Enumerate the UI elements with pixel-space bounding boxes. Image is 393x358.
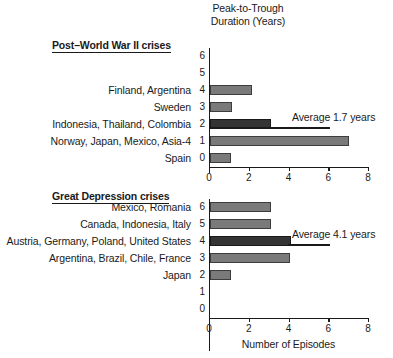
bar-row-label: Canada, Indonesia, Italy <box>80 218 191 230</box>
bar-row-label: Austria, Germany, Poland, United States <box>7 235 191 247</box>
yaxis-tick-label: 5 <box>195 218 205 229</box>
yaxis-tick-label: 1 <box>195 286 205 297</box>
xaxis-tick-label: 8 <box>358 323 378 334</box>
xaxis-tick-label: 6 <box>318 323 338 334</box>
xaxis-tick-label: 8 <box>358 172 378 183</box>
yaxis-tick-label: 4 <box>195 235 205 246</box>
average-annotation-postwar: Average 1.7 years <box>209 119 393 136</box>
yaxis-tick-label: 0 <box>195 303 205 314</box>
chart-depression: 02468 Mexico, Romania6Canada, Indonesia,… <box>0 199 393 351</box>
bar-row: Mexico, Romania6 <box>0 199 393 216</box>
average-line-depression <box>288 244 330 246</box>
bar <box>210 219 271 229</box>
chart-postwar: 02468 65Finland, Argentina4Sweden3Indone… <box>0 48 393 173</box>
bar-row-label: Indonesia, Thailand, Colombia <box>52 118 191 130</box>
bar-row: 1 <box>0 284 393 301</box>
xaxis-tick <box>249 318 250 322</box>
yaxis-title: Peak-to-Trough Duration (Years) <box>178 2 318 28</box>
yaxis-tick-label: 6 <box>195 50 205 61</box>
xaxis-tick <box>368 318 369 322</box>
bar <box>210 85 252 95</box>
yaxis-tick-label: 6 <box>195 201 205 212</box>
xaxis-tick <box>289 167 290 171</box>
xaxis-tick <box>209 167 210 171</box>
bar-row-label: Argentina, Brazil, Chile, France <box>49 252 191 264</box>
bar <box>210 153 231 163</box>
bar-row: Japan2 <box>0 267 393 284</box>
xaxis-tick <box>368 167 369 171</box>
bar <box>210 253 290 263</box>
xaxis-tick-label: 0 <box>199 172 219 183</box>
xaxis-tick <box>289 318 290 322</box>
bar-row: 5 <box>0 65 393 82</box>
bar-row: 0 <box>0 301 393 318</box>
bar-row: Spain0 <box>0 150 393 167</box>
yaxis-tick-label: 4 <box>195 84 205 95</box>
average-line-postwar <box>210 127 330 129</box>
xaxis-tick-label: 6 <box>318 172 338 183</box>
yaxis-tick-label: 2 <box>195 118 205 129</box>
yaxis-tick-label: 0 <box>195 152 205 163</box>
yaxis-title-line1: Peak-to-Trough <box>178 2 318 15</box>
bar-row: 6 <box>0 48 393 65</box>
yaxis-tick-label: 2 <box>195 269 205 280</box>
average-annotation-depression: Average 4.1 years <box>209 236 393 253</box>
bar-row-label: Mexico, Romania <box>111 201 191 213</box>
xaxis-caption: Number of Episodes <box>209 338 368 350</box>
bar-row: Finland, Argentina4 <box>0 82 393 99</box>
xaxis-tick-label: 0 <box>199 323 219 334</box>
yaxis-title-line2: Duration (Years) <box>178 15 318 28</box>
bar <box>210 102 232 112</box>
xaxis-tick <box>209 318 210 322</box>
xaxis-tick <box>249 167 250 171</box>
bar-row-label: Norway, Japan, Mexico, Asia-4 <box>51 135 191 147</box>
average-label-postwar: Average 1.7 years <box>292 111 375 123</box>
bar-row-label: Sweden <box>154 101 191 113</box>
average-label-depression: Average 4.1 years <box>292 228 375 240</box>
xaxis-tick-label: 2 <box>239 323 259 334</box>
xaxis-tick <box>328 167 329 171</box>
yaxis-tick-label: 5 <box>195 67 205 78</box>
bar <box>210 136 349 146</box>
yaxis-tick-label: 3 <box>195 101 205 112</box>
yaxis-tick-label: 1 <box>195 135 205 146</box>
xaxis-tick-label: 4 <box>279 323 299 334</box>
bar <box>210 270 231 280</box>
bar-row-label: Finland, Argentina <box>108 84 191 96</box>
xaxis-tick-label: 4 <box>279 172 299 183</box>
xaxis-tick-label: 2 <box>239 172 259 183</box>
bar-row-label: Spain <box>165 152 191 164</box>
bar <box>210 202 271 212</box>
yaxis-tick-label: 3 <box>195 252 205 263</box>
xaxis-tick <box>328 318 329 322</box>
bar-row-label: Japan <box>163 269 191 281</box>
